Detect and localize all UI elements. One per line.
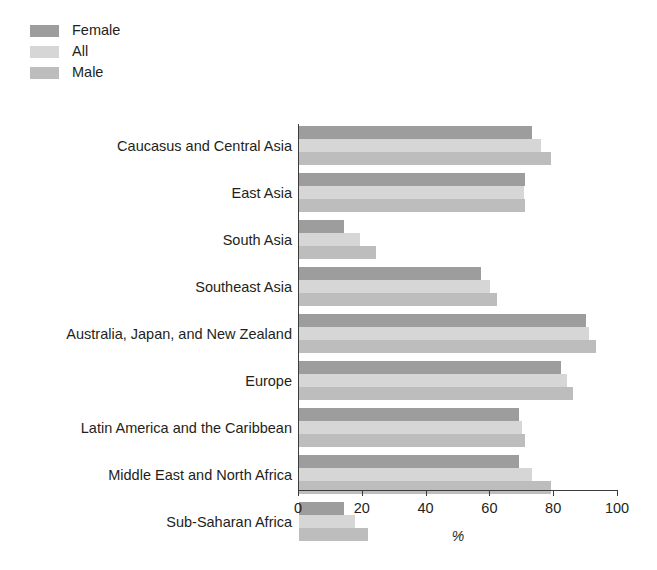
x-axis-tick-label: 80 <box>545 500 561 516</box>
x-axis-tick <box>489 490 490 496</box>
category-label: South Asia <box>6 232 292 247</box>
bar <box>299 126 532 139</box>
bar <box>299 340 596 353</box>
category-label: Middle East and North Africa <box>6 467 292 482</box>
bar <box>299 314 586 327</box>
x-axis-tick <box>553 490 554 496</box>
bar <box>299 186 524 199</box>
category-label: Southeast Asia <box>6 279 292 294</box>
bar <box>299 173 525 186</box>
bar <box>299 293 497 306</box>
category-label: Australia, Japan, and New Zealand <box>6 326 292 341</box>
x-axis-tick-label: 40 <box>418 500 434 516</box>
bar <box>299 434 525 447</box>
bar <box>299 455 519 468</box>
bar <box>299 502 344 515</box>
value-axis-line <box>298 490 618 491</box>
bar <box>299 387 573 400</box>
bar <box>299 246 376 259</box>
category-axis-line <box>298 124 299 490</box>
x-axis-tick-label: 100 <box>605 500 629 516</box>
bar <box>299 327 589 340</box>
bar <box>299 152 551 165</box>
bar <box>299 267 481 280</box>
x-axis-tick-label: 20 <box>354 500 370 516</box>
category-label: East Asia <box>6 185 292 200</box>
bar <box>299 421 522 434</box>
bar <box>299 361 561 374</box>
category-label: Caucasus and Central Asia <box>6 138 292 153</box>
bar-chart: Caucasus and Central AsiaEast AsiaSouth … <box>0 0 657 570</box>
category-label: Latin America and the Caribbean <box>6 420 292 435</box>
bar <box>299 233 360 246</box>
x-axis-tick-label: 60 <box>481 500 497 516</box>
category-label: Europe <box>6 373 292 388</box>
bar <box>299 280 490 293</box>
x-axis-tick <box>617 490 618 496</box>
x-axis-title: % <box>452 528 464 544</box>
category-axis-labels: Caucasus and Central AsiaEast AsiaSouth … <box>0 0 292 570</box>
bar <box>299 139 541 152</box>
bar <box>299 528 368 541</box>
x-axis-tick <box>362 490 363 496</box>
category-label: Sub-Saharan Africa <box>6 514 292 529</box>
bar <box>299 515 355 528</box>
bar <box>299 374 567 387</box>
x-axis-tick-label: 0 <box>294 500 302 516</box>
x-axis-tick <box>426 490 427 496</box>
bar <box>299 408 519 421</box>
x-axis-tick <box>298 490 299 496</box>
bar <box>299 468 532 481</box>
bar <box>299 220 344 233</box>
bar <box>299 199 525 212</box>
